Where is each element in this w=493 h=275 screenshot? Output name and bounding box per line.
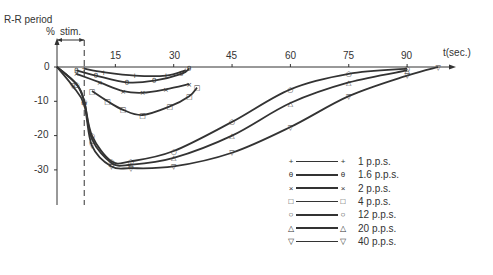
legend-item: ○○12 p.p.s. xyxy=(286,208,399,221)
legend-line xyxy=(296,241,338,243)
legend-label: 20 p.p.s. xyxy=(358,223,396,234)
legend: ++1 p.p.s. θθ1.6 p.p.s. ××2 p.p.s. □□4 p… xyxy=(286,155,399,248)
legend-marker: θ xyxy=(338,170,348,179)
svg-text:□: □ xyxy=(186,93,193,101)
svg-text:△: △ xyxy=(171,154,177,162)
legend-label: 2 p.p.s. xyxy=(358,183,391,194)
svg-text:□: □ xyxy=(89,88,96,96)
legend-line xyxy=(296,161,338,163)
x-tick-75: 75 xyxy=(343,50,354,61)
legend-marker: ○ xyxy=(286,210,296,219)
legend-item: □□4 p.p.s. xyxy=(286,195,399,208)
svg-text:○: ○ xyxy=(229,118,235,126)
svg-text:▽: ▽ xyxy=(404,72,410,80)
series-line xyxy=(57,67,438,169)
svg-text:□: □ xyxy=(120,106,127,114)
legend-label: 1.6 p.p.s. xyxy=(358,169,399,180)
legend-marker: ▽ xyxy=(286,237,296,246)
svg-text:○: ○ xyxy=(346,70,352,78)
stim-label: stim. xyxy=(60,26,81,37)
svg-text:□: □ xyxy=(139,112,146,120)
legend-line xyxy=(296,227,338,229)
svg-text:×: × xyxy=(186,81,192,89)
legend-marker: + xyxy=(338,157,348,166)
legend-line xyxy=(296,201,338,203)
legend-label: 4 p.p.s. xyxy=(358,196,391,207)
legend-line xyxy=(296,187,338,189)
svg-text:×: × xyxy=(120,88,126,96)
svg-text:▽: ▽ xyxy=(346,93,352,101)
svg-text:×: × xyxy=(97,79,103,87)
y-axis-unit: % xyxy=(46,26,55,37)
svg-text:□: □ xyxy=(104,98,111,106)
legend-marker: × xyxy=(286,184,296,193)
legend-marker: △ xyxy=(286,224,296,233)
svg-text:▽: ▽ xyxy=(229,149,235,157)
svg-text:▽: ▽ xyxy=(171,163,177,171)
legend-marker: × xyxy=(338,184,348,193)
svg-text:△: △ xyxy=(288,100,294,108)
x-tick-15: 15 xyxy=(110,50,121,61)
svg-text:×: × xyxy=(74,70,80,78)
legend-item: θθ1.6 p.p.s. xyxy=(286,168,399,181)
svg-text:×: × xyxy=(163,86,169,94)
x-axis-arrow-icon xyxy=(449,65,456,70)
x-axis-title: t(sec.) xyxy=(443,47,471,58)
y-tick-10: -10 xyxy=(34,95,48,106)
svg-text:▽: ▽ xyxy=(436,64,442,72)
y-axis-title: R-R period xyxy=(4,14,52,25)
svg-text:△: △ xyxy=(346,79,352,87)
svg-text:▽: ▽ xyxy=(109,163,115,171)
x-tick-45: 45 xyxy=(226,50,237,61)
legend-label: 40 p.p.s. xyxy=(358,236,396,247)
legend-marker: + xyxy=(286,157,296,166)
legend-marker: □ xyxy=(338,197,348,206)
legend-item: △△20 p.p.s. xyxy=(286,221,399,234)
legend-marker: θ xyxy=(286,170,296,179)
svg-text:+: + xyxy=(101,69,107,77)
svg-text:▽: ▽ xyxy=(82,101,88,109)
legend-line xyxy=(296,174,338,176)
legend-line xyxy=(296,214,338,216)
x-tick-30: 30 xyxy=(169,50,180,61)
svg-text:▽: ▽ xyxy=(128,165,134,173)
x-tick-90: 90 xyxy=(401,50,412,61)
svg-text:▽: ▽ xyxy=(89,142,95,150)
y-tick-30: -30 xyxy=(34,164,48,175)
y-axis-arrow-icon xyxy=(55,38,60,45)
x-tick-60: 60 xyxy=(285,50,296,61)
legend-marker: ○ xyxy=(338,210,348,219)
legend-marker: △ xyxy=(338,224,348,233)
svg-text:△: △ xyxy=(229,132,235,140)
legend-marker: ▽ xyxy=(338,237,348,246)
svg-text:□: □ xyxy=(166,103,173,111)
legend-label: 12 p.p.s. xyxy=(358,209,396,220)
svg-text:θ: θ xyxy=(187,65,191,73)
legend-item: ++1 p.p.s. xyxy=(286,155,399,168)
y-tick-20: -20 xyxy=(34,129,48,140)
legend-marker: □ xyxy=(286,197,296,206)
y-tick-0: 0 xyxy=(44,61,50,72)
svg-text:□: □ xyxy=(194,84,201,92)
svg-text:θ: θ xyxy=(152,77,156,85)
legend-item: ▽▽40 p.p.s. xyxy=(286,235,399,248)
svg-text:▽: ▽ xyxy=(70,82,76,90)
svg-text:○: ○ xyxy=(287,86,293,94)
svg-text:×: × xyxy=(140,89,146,97)
svg-text:+: + xyxy=(132,72,138,80)
legend-item: ××2 p.p.s. xyxy=(286,182,399,195)
svg-text:θ: θ xyxy=(179,70,183,78)
chart-plot: +++++θθθθθθ××××××□□□□□□□○○○○○○○○○○△△△△△△… xyxy=(0,0,493,275)
svg-text:θ: θ xyxy=(125,79,129,87)
legend-label: 1 p.p.s. xyxy=(358,156,391,167)
svg-text:▽: ▽ xyxy=(288,124,294,132)
